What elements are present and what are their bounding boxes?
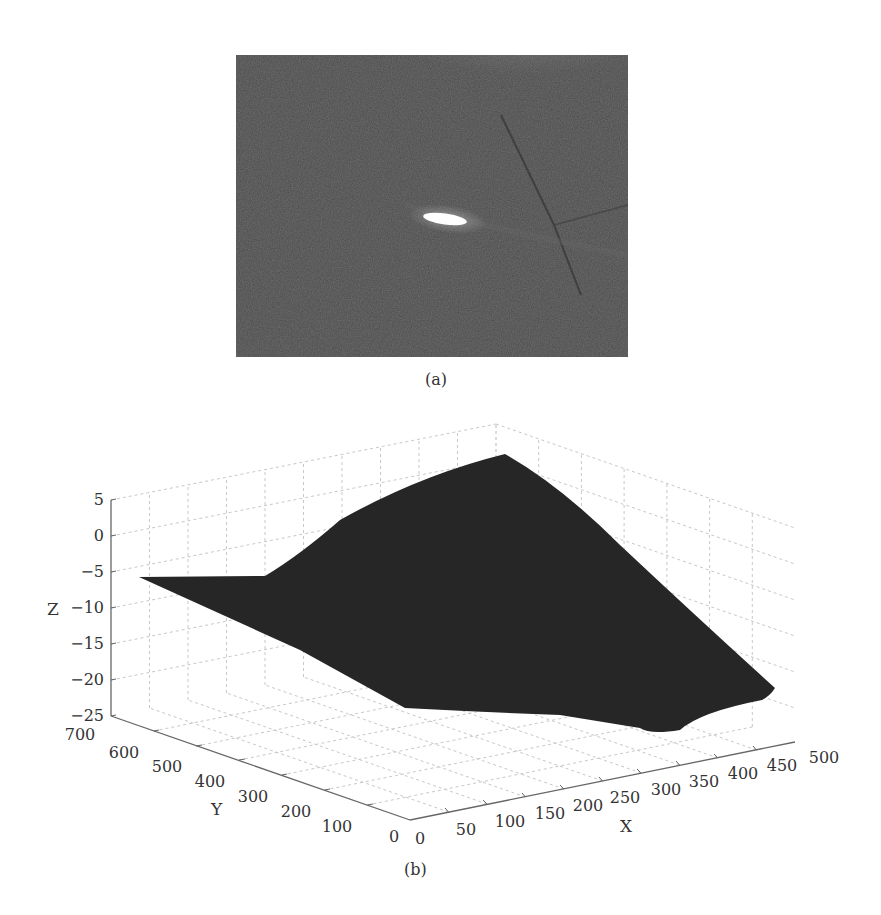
z-tick-labels: 5 0 −5 −10 −15 −20 −25 <box>70 490 104 725</box>
x-tick: 250 <box>610 788 641 807</box>
z-axis-label: Z <box>47 599 59 619</box>
panel-b-label: (b) <box>404 860 427 879</box>
y-tick: 200 <box>281 802 312 821</box>
z-tick: −10 <box>70 598 104 617</box>
z-tick: −5 <box>80 562 104 581</box>
z-tick: 5 <box>94 490 104 509</box>
y-tick: 300 <box>238 787 269 806</box>
surface-plot-panel-b: 5 0 −5 −10 −15 −20 −25 Z 700 600 500 400… <box>0 380 881 915</box>
x-tick: 150 <box>535 804 566 823</box>
x-tick: 100 <box>495 812 526 831</box>
camera-image <box>236 55 628 357</box>
x-tick: 0 <box>415 829 425 848</box>
y-tick: 0 <box>389 827 399 846</box>
camera-image-panel-a <box>236 55 628 357</box>
y-tick: 500 <box>152 757 183 776</box>
x-tick: 450 <box>767 756 798 775</box>
y-tick: 600 <box>109 743 140 762</box>
z-tick: −15 <box>70 634 104 653</box>
x-tick: 500 <box>809 748 840 767</box>
z-tick: −25 <box>70 706 104 725</box>
y-axis-label: Y <box>210 799 223 819</box>
z-tick: 0 <box>94 526 104 545</box>
x-tick: 300 <box>651 780 682 799</box>
z-tick: −20 <box>70 670 104 689</box>
x-tick: 350 <box>689 772 720 791</box>
surface <box>139 454 775 732</box>
x-axis-label: X <box>620 816 633 836</box>
x-tick: 200 <box>573 796 604 815</box>
x-tick: 50 <box>456 820 476 839</box>
x-tick: 400 <box>728 764 759 783</box>
y-tick: 700 <box>65 725 96 744</box>
y-tick: 100 <box>322 817 353 836</box>
y-tick: 400 <box>195 772 226 791</box>
